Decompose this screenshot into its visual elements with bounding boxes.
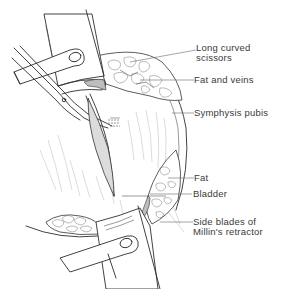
label-symphysis-pubis: Symphysis pubis	[194, 108, 268, 118]
label-line: Fat	[194, 173, 208, 183]
label-fat-and-veins: Fat and veins	[194, 75, 254, 85]
incision-wound	[88, 98, 114, 196]
label-line: Millin's retractor	[193, 227, 263, 237]
label-line: Fat and veins	[194, 75, 254, 85]
label-side-blades: Side blades of Millin's retractor	[193, 217, 263, 237]
label-line: scissors	[196, 53, 251, 63]
label-line: Symphysis pubis	[194, 108, 268, 118]
label-bladder: Bladder	[193, 189, 227, 199]
surgical-diagram: Long curved scissors Fat and veins Symph…	[0, 0, 288, 289]
upper-fat-and-veins	[96, 52, 182, 100]
top-retractor-blade	[14, 10, 106, 94]
lower-left-fat	[26, 215, 100, 237]
label-fat: Fat	[194, 173, 208, 183]
label-long-curved-scissors: Long curved scissors	[196, 43, 251, 63]
label-line: Bladder	[193, 189, 227, 199]
